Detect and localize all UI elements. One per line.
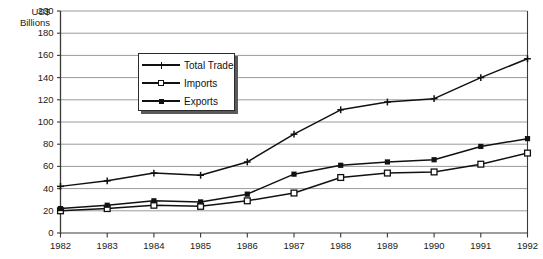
y-axis-tick-label: 20 bbox=[28, 205, 54, 216]
y-axis-tick-label: 140 bbox=[28, 72, 54, 83]
x-axis-tick-label: 1984 bbox=[134, 240, 174, 251]
legend-label: Exports bbox=[184, 96, 218, 107]
x-axis-tick-label: 1982 bbox=[41, 240, 81, 251]
legend-label: Total Trade bbox=[184, 60, 233, 71]
chart-legend: Total TradeImportsExports bbox=[138, 53, 235, 111]
y-axis-tick-label: 120 bbox=[28, 94, 54, 105]
legend-marker-filled-square-icon bbox=[142, 94, 180, 108]
legend-item-imports[interactable]: Imports bbox=[142, 74, 230, 92]
x-axis-tick-label: 1991 bbox=[461, 240, 501, 251]
y-axis-tick-label: 160 bbox=[28, 49, 54, 60]
x-axis-tick-label: 1990 bbox=[414, 240, 454, 251]
y-axis-tick-label: 80 bbox=[28, 138, 54, 149]
y-axis-tick-label: 60 bbox=[28, 160, 54, 171]
legend-marker-cross-icon bbox=[142, 58, 180, 72]
y-axis-tick-label: 0 bbox=[28, 227, 54, 238]
x-axis-tick-label: 1987 bbox=[274, 240, 314, 251]
x-axis-tick-label: 1983 bbox=[87, 240, 127, 251]
y-axis-tick-label: 200 bbox=[28, 5, 54, 16]
x-axis-tick-label: 1986 bbox=[227, 240, 267, 251]
legend-label: Imports bbox=[184, 78, 217, 89]
legend-marker-open-square-icon bbox=[142, 76, 180, 90]
legend-item-total-trade[interactable]: Total Trade bbox=[142, 56, 230, 74]
y-axis-tick-label: 180 bbox=[28, 27, 54, 38]
x-axis-tick-label: 1992 bbox=[508, 240, 543, 251]
legend-item-exports[interactable]: Exports bbox=[142, 92, 230, 110]
y-axis-tick-label: 100 bbox=[28, 116, 54, 127]
y-axis-tick-label: 40 bbox=[28, 183, 54, 194]
x-axis-tick-label: 1988 bbox=[321, 240, 361, 251]
x-axis-tick-label: 1989 bbox=[367, 240, 407, 251]
x-axis-tick-label: 1985 bbox=[181, 240, 221, 251]
